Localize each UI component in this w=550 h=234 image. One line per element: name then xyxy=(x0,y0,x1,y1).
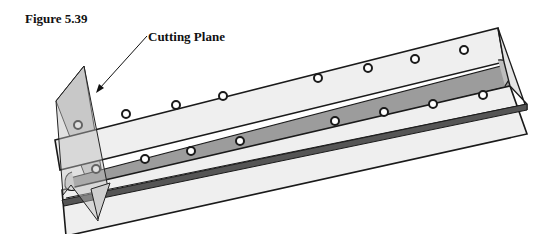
leader-line xyxy=(100,36,147,88)
beam-illustration xyxy=(0,0,550,234)
